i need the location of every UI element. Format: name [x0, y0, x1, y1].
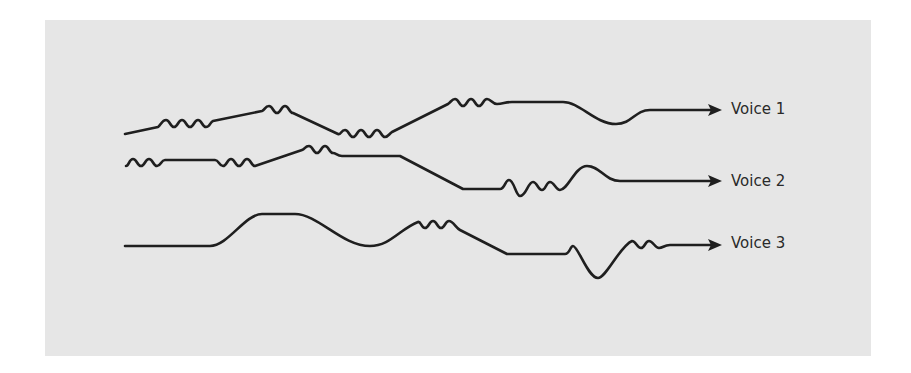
voice-1-path — [125, 99, 712, 137]
voice-1-label: Voice 1 — [731, 100, 785, 118]
voice-3-path — [125, 214, 712, 278]
voice-2-path — [126, 146, 712, 196]
voice-2-line — [126, 146, 722, 196]
voice-3-label: Voice 3 — [731, 234, 785, 252]
voice-1-line — [125, 99, 722, 137]
voice-3-line — [125, 214, 722, 278]
voice-2-label: Voice 2 — [731, 172, 785, 190]
